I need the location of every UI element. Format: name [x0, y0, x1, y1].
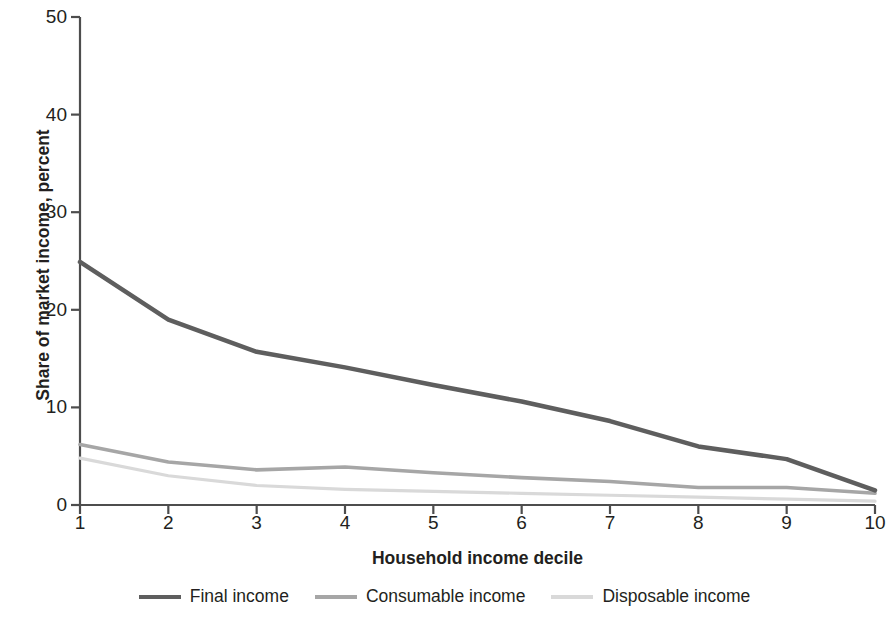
x-tick-label: 8: [678, 512, 718, 534]
legend-line-swatch: [551, 595, 593, 599]
x-tick-label: 5: [413, 512, 453, 534]
legend-line-swatch: [139, 595, 181, 600]
series-line: [80, 262, 875, 490]
x-tick-label: 6: [502, 512, 542, 534]
legend-label: Consumable income: [366, 588, 526, 606]
legend-item[interactable]: Final income: [139, 588, 289, 606]
x-tick-label: 10: [855, 512, 889, 534]
x-tick-label: 1: [60, 512, 100, 534]
series-lines: [80, 262, 875, 501]
series-line: [80, 444, 875, 493]
x-tick-label: 3: [237, 512, 277, 534]
legend-item[interactable]: Disposable income: [551, 588, 750, 606]
legend-label: Final income: [190, 588, 289, 606]
x-tick-label: 7: [590, 512, 630, 534]
chart-legend: Final incomeConsumable incomeDisposable …: [0, 588, 889, 606]
x-tick-label: 4: [325, 512, 365, 534]
legend-line-swatch: [315, 595, 357, 599]
x-tick-label: 9: [767, 512, 807, 534]
x-axis-title: Household income decile: [80, 548, 875, 569]
x-tick-label: 2: [148, 512, 188, 534]
y-axis-title: Share of market income, percent: [28, 0, 58, 530]
legend-label: Disposable income: [602, 588, 750, 606]
legend-item[interactable]: Consumable income: [315, 588, 526, 606]
chart-figure: 01020304050 12345678910 Share of market …: [0, 0, 889, 617]
x-tick-marks: [80, 505, 875, 514]
